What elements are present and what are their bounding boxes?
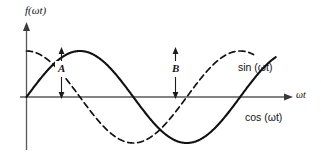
amplitude-a-arrowhead-bottom [59, 92, 65, 99]
sin-curve-label: sin (ωt) [238, 62, 272, 73]
y-axis [23, 22, 30, 150]
amplitude-b-arrowhead-top [173, 47, 179, 54]
y-axis-arrowhead [23, 22, 30, 31]
amplitude-b-arrowhead-bottom [173, 92, 179, 99]
amplitude-a-arrowhead-top [59, 47, 65, 54]
amplitude-b-label: B [172, 63, 179, 74]
y-axis-label: f(ωt) [25, 5, 46, 16]
waveform-figure: f(ωt) ωt sin (ωt) cos (ωt) A B [0, 0, 321, 159]
cos-curve-label: cos (ωt) [245, 112, 282, 123]
figure-canvas [0, 0, 321, 159]
x-axis-arrowhead [284, 93, 293, 100]
x-axis-label: ωt [296, 90, 306, 100]
amplitude-a-label: A [58, 63, 65, 74]
